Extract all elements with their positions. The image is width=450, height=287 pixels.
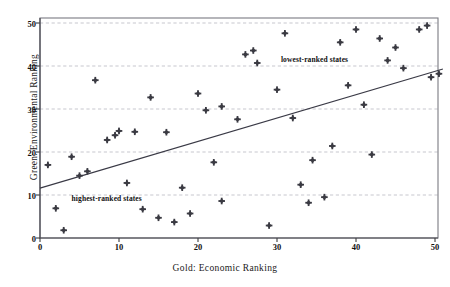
data-point: [329, 143, 336, 150]
data-point: [155, 214, 162, 221]
data-point: [242, 51, 249, 58]
data-point: [290, 115, 297, 122]
data-point: [132, 128, 139, 135]
data-point: [163, 129, 170, 136]
data-point: [218, 103, 225, 110]
data-point: [305, 199, 312, 206]
data-point: [139, 206, 146, 213]
plot-canvas: [0, 0, 450, 287]
data-point: [45, 162, 52, 169]
data-point: [345, 82, 352, 89]
data-point: [60, 227, 67, 234]
scatter-plot-figure: Green: Environmental Ranking Gold: Econo…: [0, 0, 450, 287]
data-point: [234, 116, 241, 123]
data-point: [274, 86, 281, 93]
gridlines: [40, 23, 438, 195]
data-point: [376, 35, 383, 42]
data-point: [104, 137, 111, 144]
data-point: [187, 210, 194, 217]
data-point: [171, 219, 178, 226]
data-point: [112, 132, 119, 139]
data-point: [147, 94, 154, 101]
data-point: [353, 26, 360, 33]
data-point: [250, 47, 257, 54]
data-point: [416, 26, 423, 33]
data-point: [218, 198, 225, 205]
data-point: [116, 128, 123, 135]
data-point: [92, 77, 99, 84]
data-point: [297, 181, 304, 188]
data-point: [392, 44, 399, 51]
data-point: [384, 57, 391, 64]
data-point: [203, 107, 210, 114]
data-point: [76, 172, 83, 179]
data-point: [369, 151, 376, 158]
data-point: [266, 222, 273, 229]
data-point: [254, 60, 261, 67]
data-point: [53, 205, 60, 212]
data-point: [195, 90, 202, 97]
data-point: [309, 157, 316, 164]
data-point: [124, 180, 131, 187]
plot-frame: [40, 18, 438, 238]
data-point: [211, 159, 218, 166]
data-point: [428, 74, 435, 81]
data-point: [282, 30, 289, 37]
data-point: [179, 184, 186, 191]
data-point: [337, 39, 344, 46]
data-point: [361, 101, 368, 108]
data-point: [68, 153, 75, 160]
trend-line: [40, 69, 443, 188]
